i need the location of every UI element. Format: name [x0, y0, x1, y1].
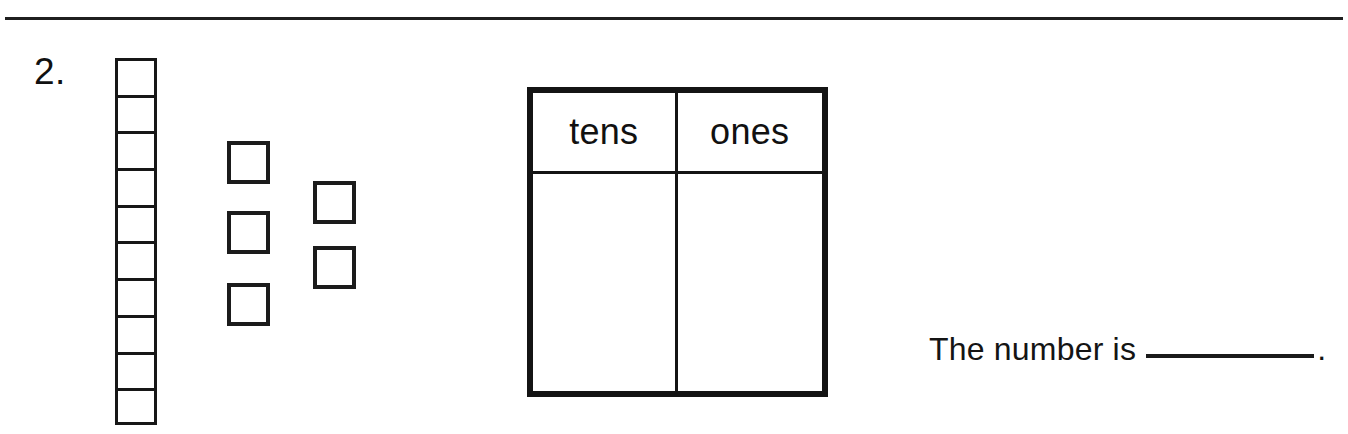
tens-rod-segment	[115, 58, 157, 95]
answer-prompt: The number is .	[929, 330, 1326, 368]
tens-rod-segment	[115, 315, 157, 352]
tens-rod-segment	[115, 205, 157, 242]
place-value-table: tens ones	[527, 87, 828, 397]
tens-rod-segment	[115, 168, 157, 205]
section-divider-rule	[5, 17, 1343, 20]
table-header-tens: tens	[533, 93, 678, 171]
table-answer-row	[533, 174, 822, 391]
tens-rod-segment	[115, 278, 157, 315]
ones-unit-square	[313, 181, 356, 224]
table-cell-tens-answer[interactable]	[533, 174, 678, 391]
worksheet-page: 2. tens ones The numbe	[0, 0, 1348, 434]
table-header-ones: ones	[678, 93, 823, 171]
tens-rod-segment	[115, 388, 157, 425]
tens-rod-segment	[115, 352, 157, 389]
ones-unit-square	[227, 211, 270, 254]
problem-number: 2.	[34, 50, 66, 94]
ones-unit-square	[227, 141, 270, 184]
tens-rod-segment	[115, 131, 157, 168]
ones-unit-square	[227, 283, 270, 326]
tens-rod-segment	[115, 241, 157, 278]
tens-rod	[115, 58, 157, 425]
table-header-ones-label: ones	[710, 112, 789, 152]
table-header-tens-label: tens	[569, 112, 638, 152]
ones-unit-square	[313, 246, 356, 289]
answer-prompt-period: .	[1317, 330, 1326, 368]
table-header-row: tens ones	[533, 93, 822, 174]
answer-blank-line[interactable]	[1146, 354, 1314, 358]
tens-rod-segment	[115, 95, 157, 132]
answer-prompt-label: The number is	[929, 330, 1136, 368]
table-cell-ones-answer[interactable]	[678, 174, 823, 391]
